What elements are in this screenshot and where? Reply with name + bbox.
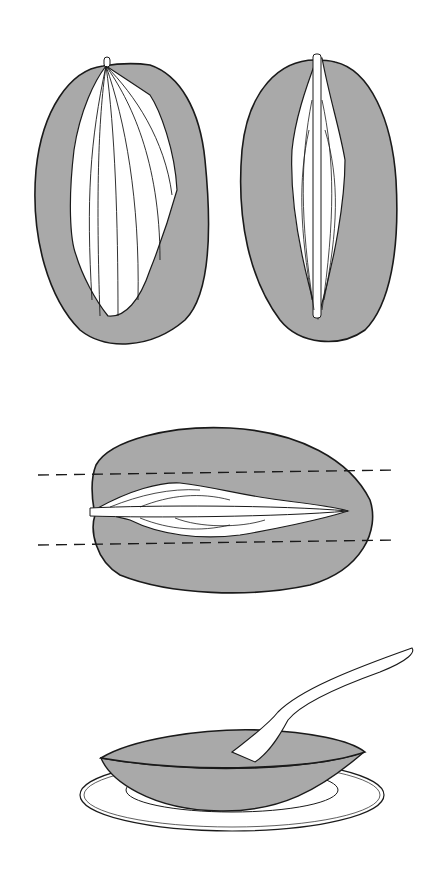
mango-diagram bbox=[0, 0, 443, 877]
mango-top-view-cut-lines bbox=[38, 428, 398, 593]
mango-cheek-with-spoon bbox=[80, 648, 413, 831]
mango-side-view-left bbox=[35, 57, 209, 344]
mango-side-view-right bbox=[241, 54, 397, 341]
